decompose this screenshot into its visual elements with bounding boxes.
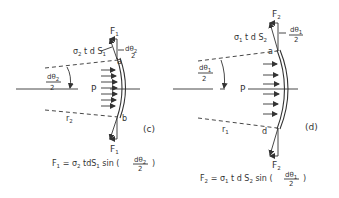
pressure-label: P xyxy=(240,84,246,94)
radial-line-top xyxy=(198,51,277,61)
force-top-label: F2 xyxy=(272,9,281,20)
stress-vector-bottom xyxy=(110,118,117,139)
point-a-label: a xyxy=(117,57,122,66)
point-b-label: b xyxy=(122,114,127,123)
radius-label: r2 xyxy=(66,114,73,124)
svg-text:F2 = σ1 t d S2 sin (: F2 = σ1 t d S2 sin ( xyxy=(200,174,273,184)
force-bottom-label: F1 xyxy=(110,144,119,155)
stress-vector-top xyxy=(110,39,117,59)
figure-c: F1 σ2 t d S1 dθ2 2 a dθ2 2 P r2 b (c) F1… xyxy=(16,26,155,173)
equation-d: F2 = σ1 t d S2 sin ( dθ1 2 ) xyxy=(200,171,306,188)
svg-text:dθ1: dθ1 xyxy=(199,64,211,73)
stress-vector-bottom xyxy=(270,128,278,155)
svg-text:2: 2 xyxy=(289,180,293,188)
svg-text:): ) xyxy=(303,174,306,183)
svg-text:dθ1: dθ1 xyxy=(290,26,302,35)
pressure-arrows xyxy=(101,70,117,106)
svg-text:dθ2: dθ2 xyxy=(47,73,59,82)
stress-label: σ1 t d S2 xyxy=(234,33,267,43)
force-top-label: F1 xyxy=(110,26,119,37)
angle-small-fraction: dθ2 2 xyxy=(125,45,137,60)
svg-text:2: 2 xyxy=(50,84,54,92)
radial-line-bottom xyxy=(45,110,118,117)
shell-arc-outer xyxy=(120,58,126,118)
svg-text:2: 2 xyxy=(202,75,206,83)
radius-label: r1 xyxy=(222,125,229,135)
svg-text:2: 2 xyxy=(138,165,142,173)
shell-arc-inner xyxy=(277,50,285,129)
pressure-label: P xyxy=(91,84,97,94)
panel-label-d: (d) xyxy=(305,122,318,132)
angle-arrow xyxy=(67,67,71,88)
equation-c: F1 = σ2 tdS1 sin ( dθ2 2 ) xyxy=(52,156,155,173)
svg-text:2: 2 xyxy=(131,52,135,60)
point-a-label: a xyxy=(268,47,273,56)
membrane-force-diagram: F1 σ2 t d S1 dθ2 2 a dθ2 2 P r2 b (c) F1… xyxy=(0,0,339,198)
stress-label: σ2 t d S1 xyxy=(73,47,106,57)
shell-arc-inner xyxy=(117,58,122,118)
radial-line-top xyxy=(45,60,118,68)
angle-small-fraction: dθ1 2 xyxy=(289,26,303,44)
force-bottom-label: F2 xyxy=(272,160,281,171)
angle-arrow xyxy=(221,60,225,88)
svg-text:2: 2 xyxy=(294,36,298,44)
svg-text:): ) xyxy=(152,159,155,168)
panel-label-c: (c) xyxy=(143,124,155,134)
figure-d: F2 σ1 t d S2 dθ1 2 a dθ1 2 P r1 d (d) F2… xyxy=(173,9,318,188)
svg-text:F1 = σ2 tdS1 sin (: F1 = σ2 tdS1 sin ( xyxy=(52,159,119,169)
point-d-label: d xyxy=(262,127,267,136)
angle-left-fraction: dθ1 2 xyxy=(198,64,213,83)
